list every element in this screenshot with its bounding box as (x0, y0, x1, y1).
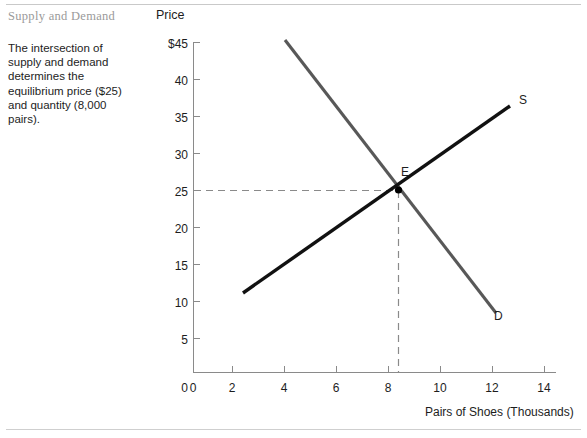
supply-curve (243, 106, 510, 293)
equilibrium-point-label: E (401, 165, 409, 179)
demand-curve (285, 40, 496, 313)
supply-curve-label: S (519, 93, 527, 107)
equilibrium-point-marker (395, 186, 402, 193)
chart-plot-area: Price Pairs of Shoes (Thousands) $45 40 … (0, 0, 587, 438)
figure-page: Supply and Demand The intersection of su… (0, 0, 587, 438)
x-axis-ticks (233, 366, 545, 373)
chart-canvas (0, 0, 587, 438)
demand-curve-label: D (494, 309, 503, 323)
